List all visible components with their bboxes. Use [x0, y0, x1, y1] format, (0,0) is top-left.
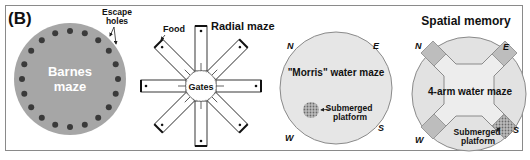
escape-arrow-2 — [114, 27, 116, 44]
four-arm-dir-e: E — [503, 42, 510, 52]
escape-hole — [113, 91, 119, 97]
morris-dir-n: N — [287, 41, 294, 51]
panel-label: (B) — [8, 9, 32, 28]
escape-hole — [39, 115, 45, 121]
escape-hole — [106, 48, 112, 54]
escape-hole — [28, 104, 34, 110]
barnes-title-line1: Barnes — [48, 64, 92, 79]
radial-arm — [154, 39, 196, 81]
escape-hole — [82, 122, 88, 128]
morris-dir-w: W — [285, 133, 295, 143]
morris-platform-label-2: platform — [333, 112, 367, 122]
escape-hole — [115, 76, 121, 82]
radial-arm — [213, 80, 261, 92]
escape-hole — [95, 37, 101, 43]
morris-platform — [303, 102, 319, 118]
four-arm-platform-label-2: platform — [461, 136, 495, 146]
escape-holes-label-line2: holes — [106, 16, 128, 26]
morris-water-maze: "Morris" water maze Submerged platform N… — [280, 32, 392, 144]
radial-arm — [195, 26, 207, 74]
figure-canvas: (B) Barnes maze Escape holes Radial maze… — [0, 0, 530, 160]
radial-maze-title: Radial maze — [211, 20, 275, 32]
four-arm-title: 4-arm water maze — [428, 86, 512, 97]
barnes-title-line2: maze — [54, 79, 87, 94]
four-arm-dir-w: W — [415, 135, 425, 145]
escape-hole — [21, 61, 27, 67]
escape-hole — [106, 104, 112, 110]
escape-hole — [52, 122, 58, 128]
radial-arm — [195, 98, 207, 146]
barnes-maze: Barnes maze Escape holes — [14, 7, 132, 135]
morris-dir-s: S — [378, 123, 384, 133]
four-arm-dir-n: N — [415, 41, 422, 51]
four-arm-water-maze: Spatial memory 4-arm water maze Submerge… — [412, 14, 526, 151]
escape-hole — [67, 124, 73, 130]
escape-hole — [82, 30, 88, 36]
gates-label: Gates — [188, 82, 213, 92]
four-arm-dir-s: S — [513, 125, 519, 135]
section-title: Spatial memory — [421, 14, 511, 28]
radial-maze: Radial maze Food Gates — [141, 20, 275, 146]
morris-dir-e: E — [373, 41, 380, 51]
escape-hole — [67, 28, 73, 34]
escape-hole — [21, 91, 27, 97]
escape-hole — [95, 115, 101, 121]
radial-arm — [154, 90, 196, 132]
morris-title: "Morris" water maze — [288, 67, 385, 78]
escape-hole — [19, 76, 25, 82]
escape-hole — [39, 37, 45, 43]
escape-hole — [113, 61, 119, 67]
radial-arm — [205, 90, 247, 132]
escape-hole — [52, 30, 58, 36]
escape-hole — [28, 48, 34, 54]
food-label: Food — [163, 24, 185, 34]
escape-arrow-1 — [110, 27, 114, 36]
radial-arm — [141, 80, 189, 92]
